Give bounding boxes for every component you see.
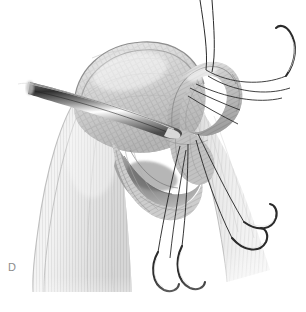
panel-label: D	[8, 261, 16, 273]
illustration-canvas	[0, 0, 306, 312]
surgical-illustration-figure: D	[0, 0, 306, 312]
bottom-fade	[0, 276, 306, 312]
